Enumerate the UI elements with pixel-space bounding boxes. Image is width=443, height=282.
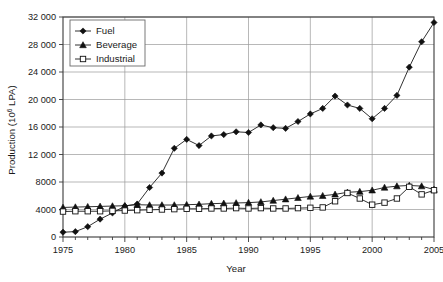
- y-tick-label: 28 000: [28, 40, 56, 50]
- marker-open-square: [394, 196, 399, 201]
- x-tick-label: 1975: [53, 245, 73, 255]
- y-tick-label: 8000: [36, 177, 56, 187]
- x-tick-label: 1995: [300, 245, 320, 255]
- y-tick-label: 0: [51, 232, 56, 242]
- marker-open-square: [97, 209, 102, 214]
- x-tick-label: 2005: [424, 245, 443, 255]
- chart-legend[interactable]: FuelBeverageIndustrial: [70, 20, 145, 66]
- marker-open-square: [233, 205, 238, 210]
- y-tick-label: 20 000: [28, 95, 56, 105]
- marker-open-square: [431, 188, 436, 193]
- y-axis-title-suffix: LPA): [6, 85, 17, 108]
- marker-open-square: [73, 209, 78, 214]
- marker-open-square: [135, 207, 140, 212]
- marker-open-square: [345, 190, 350, 195]
- marker-open-square: [209, 206, 214, 211]
- marker-open-square: [196, 206, 201, 211]
- y-axis-title: Production (106 LPA): [6, 85, 17, 174]
- marker-open-square: [122, 208, 127, 213]
- marker-open-square: [221, 206, 226, 211]
- x-tick-label: 1980: [115, 245, 135, 255]
- marker-open-square: [147, 207, 152, 212]
- y-tick-label: 12 000: [28, 150, 56, 160]
- marker-open-square: [172, 206, 177, 211]
- marker-open-square: [295, 205, 300, 210]
- marker-open-square: [80, 56, 85, 61]
- marker-open-square: [85, 209, 90, 214]
- y-axis-title-prefix: Production (10: [6, 112, 17, 174]
- legend-label: Industrial: [96, 53, 135, 64]
- line-chart: 04000800012 00016 00020 00024 00028 0003…: [0, 0, 443, 282]
- x-tick-label: 2000: [362, 245, 382, 255]
- y-tick-label: 16 000: [28, 122, 56, 132]
- marker-open-square: [271, 206, 276, 211]
- marker-open-square: [258, 205, 263, 210]
- marker-open-square: [308, 205, 313, 210]
- marker-open-square: [283, 206, 288, 211]
- marker-open-square: [357, 196, 362, 201]
- y-tick-label: 4000: [36, 205, 56, 215]
- x-axis-title: Year: [226, 263, 246, 274]
- marker-open-square: [320, 205, 325, 210]
- marker-open-square: [184, 206, 189, 211]
- legend-label: Beverage: [96, 39, 137, 50]
- marker-open-square: [382, 200, 387, 205]
- marker-open-square: [159, 207, 164, 212]
- marker-open-square: [369, 202, 374, 207]
- y-tick-label: 24 000: [28, 67, 56, 77]
- chart-figure: 04000800012 00016 00020 00024 00028 0003…: [0, 0, 443, 282]
- marker-open-square: [60, 209, 65, 214]
- x-tick-label: 1990: [238, 245, 258, 255]
- marker-open-square: [110, 208, 115, 213]
- marker-open-square: [332, 199, 337, 204]
- legend-label: Fuel: [96, 25, 115, 36]
- chart-background: [0, 0, 443, 282]
- x-tick-label: 1985: [176, 245, 196, 255]
- marker-open-square: [246, 206, 251, 211]
- y-tick-label: 32 000: [28, 12, 56, 22]
- marker-open-square: [419, 192, 424, 197]
- marker-open-square: [407, 184, 412, 189]
